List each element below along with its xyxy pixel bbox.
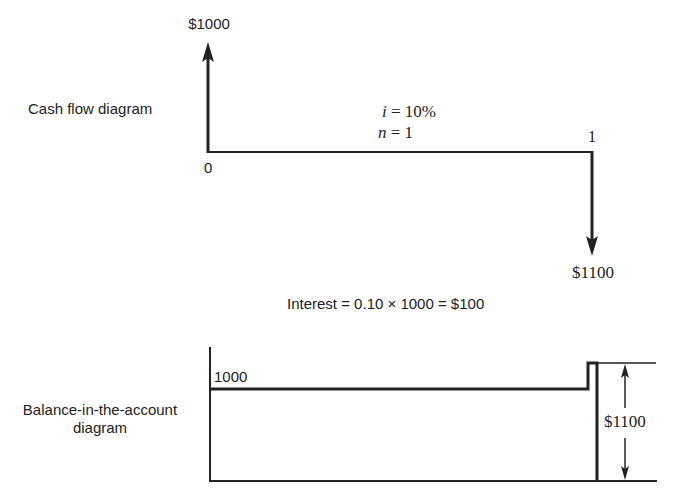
- balance-title-line1: Balance-in-the-account: [0, 401, 200, 419]
- cash-flow-title: Cash flow diagram: [28, 100, 152, 118]
- balance-diagram: [210, 347, 657, 482]
- inflow-amount-label: $1000: [172, 15, 246, 33]
- balance-title-line2: diagram: [0, 419, 200, 437]
- diagram-canvas: Cash flow diagram $1000 0 1 i = 10% n = …: [0, 0, 675, 496]
- cash-flow-diagram: [202, 42, 598, 256]
- outflow-amount-label: $1100: [556, 264, 630, 282]
- periods-value: = 1: [387, 123, 414, 142]
- interest-rate-label: i = 10%: [382, 103, 436, 121]
- period-end-label: 1: [588, 128, 596, 146]
- balance-line: [210, 363, 597, 481]
- interest-formula: Interest = 0.10 × 1000 = $100: [287, 295, 484, 313]
- balance-title: Balance-in-the-account diagram: [0, 401, 200, 437]
- periods-variable: n: [378, 123, 387, 142]
- balance-start-value: 1000: [214, 368, 247, 386]
- balance-end-value: $1100: [603, 413, 647, 431]
- rate-value: = 10%: [387, 102, 436, 121]
- period-start-label: 0: [204, 159, 212, 177]
- periods-label: n = 1: [378, 124, 413, 142]
